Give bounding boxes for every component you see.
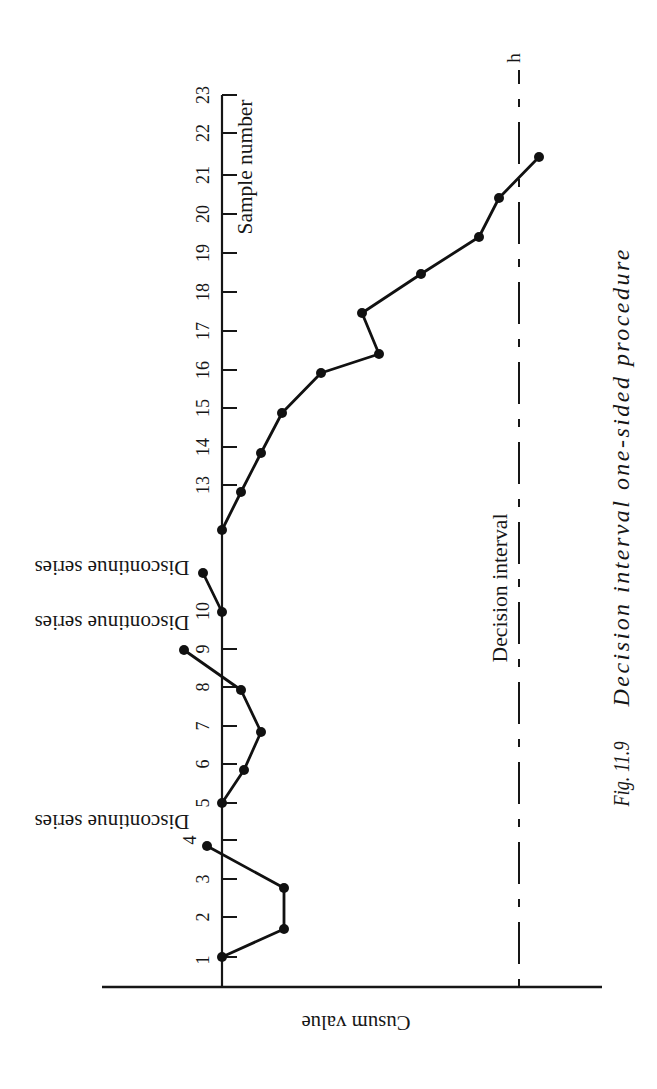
data-point [198,568,208,578]
data-point [217,952,227,962]
tick-label: 10 [193,602,213,620]
tick-label: 19 [193,244,213,262]
figure-number: Fig. 11.9 [608,742,634,808]
data-point [494,193,504,203]
cusum-run-line [222,157,539,530]
tick-label: 20 [193,205,213,223]
data-point [217,607,227,617]
tick-label: 21 [193,166,213,184]
data-point [534,152,544,162]
tick-label: 18 [193,283,213,301]
tick-label: 15 [193,399,213,417]
tick-label: 4 [180,836,200,845]
data-point [277,408,287,418]
figure: 123456789101314151617181920212223 Sample… [0,0,657,1089]
tick-label: 8 [193,683,213,692]
data-point [239,765,249,775]
discontinue-annotation: Discontinue series [35,810,190,834]
tick-label: 3 [193,875,213,884]
tick-label: 2 [193,913,213,922]
data-point [474,232,484,242]
discontinue-annotation: Discontinue series [35,556,190,580]
data-point [279,924,289,934]
tick-label: 17 [193,322,213,340]
discontinue-annotation: Discontinue series [35,611,190,635]
data-point [279,883,289,893]
tick-label: 7 [193,722,213,731]
data-point [256,448,266,458]
cusum-run-line [207,846,284,957]
data-point [236,487,246,497]
tick-label: 22 [193,124,213,142]
tick-label: 16 [193,361,213,379]
data-point [179,645,189,655]
data-point [217,798,227,808]
data-point [316,368,326,378]
figure-caption: Decision interval one-sided procedure [608,249,634,707]
data-point [374,349,384,359]
data-point [202,841,212,851]
tick-label: 14 [193,438,213,456]
data-point [217,525,227,535]
tick-label: 13 [193,476,213,494]
h-label: h [503,53,524,63]
tick-label: 9 [193,645,213,654]
tick-label: 1 [193,956,213,965]
data-point [416,269,426,279]
tick-label: 23 [193,86,213,104]
tick-label: 6 [193,760,213,769]
decision-interval-label: Decision interval [488,513,512,662]
cusum-chart: 123456789101314151617181920212223 Sample… [0,0,657,1089]
cusum-axis-label: Cusum value [302,1011,411,1035]
data-point [256,727,266,737]
data-point [357,308,367,318]
data-point [236,685,246,695]
sample-axis-label: Sample number [233,99,257,234]
tick-label: 5 [193,799,213,808]
